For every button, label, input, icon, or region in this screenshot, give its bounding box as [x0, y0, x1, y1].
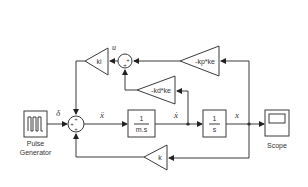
- x-dot-label: ẋ: [173, 110, 178, 120]
- x-ddot-label: ẍ: [99, 110, 104, 120]
- scope-block[interactable]: [265, 110, 289, 136]
- gain-k-label: k: [158, 154, 162, 161]
- integrator-s-num: 1: [213, 115, 217, 122]
- gain-k-block[interactable]: k: [144, 145, 167, 170]
- ki-output-line: [76, 61, 85, 114]
- integrator-ms-den: m.s: [136, 126, 148, 133]
- top-sum-sign-right: +: [126, 57, 130, 63]
- u-label: u: [112, 43, 116, 52]
- scope-screen-icon: [269, 114, 285, 123]
- kd-output-line: [125, 70, 137, 90]
- top-sum-block[interactable]: + +: [118, 54, 132, 68]
- main-sum-sign-bottom: +: [74, 126, 78, 132]
- delta-signal-label: δ: [56, 108, 61, 118]
- block-diagram-canvas: Pulse Generator δ + + + ẍ 1 m.s ẋ 1 s x …: [0, 0, 308, 187]
- main-sum-sign-top: +: [74, 116, 78, 122]
- gain-kp-label: -kp*ke: [195, 58, 215, 66]
- pulse-generator-block[interactable]: [24, 111, 47, 137]
- scope-label: Scope: [267, 142, 287, 150]
- gain-ki-label: ki: [96, 58, 102, 65]
- integrator-s-block[interactable]: 1 s: [203, 110, 226, 137]
- integrator-s-den: s: [213, 126, 217, 133]
- gain-ki-block[interactable]: ki: [85, 48, 108, 75]
- gain-kd-label: -kd*ke: [151, 87, 171, 94]
- main-sum-block[interactable]: + + +: [68, 116, 84, 132]
- gain-kp-block[interactable]: -kp*ke: [180, 46, 219, 76]
- integrator-ms-block[interactable]: 1 m.s: [128, 110, 155, 137]
- pulse-generator-label: Pulse: [27, 140, 45, 147]
- gain-kd-block[interactable]: -kd*ke: [137, 76, 175, 104]
- kd-input-line: [177, 91, 188, 124]
- top-sum-sign-bottom: +: [123, 62, 127, 68]
- pulse-generator-label-2: Generator: [20, 149, 52, 156]
- x-label: x: [234, 110, 239, 120]
- integrator-ms-num: 1: [140, 115, 144, 122]
